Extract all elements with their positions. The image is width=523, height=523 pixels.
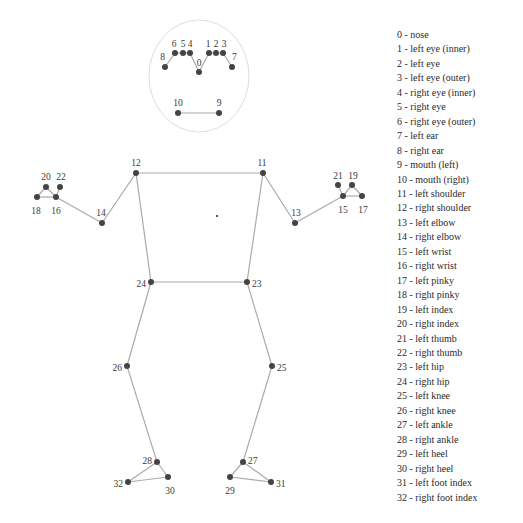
- landmark-label: 4: [188, 39, 193, 49]
- head-outline: [149, 20, 249, 132]
- landmark-label: 24: [137, 279, 147, 289]
- landmark-labels: 0123456789101112131415161718192021222324…: [31, 39, 368, 496]
- landmark-label: 7: [232, 52, 237, 62]
- landmark-label: 1: [206, 39, 211, 49]
- landmark-label: 16: [51, 206, 61, 216]
- connection-line: [136, 173, 151, 282]
- legend-item: 24 - right hip: [397, 375, 478, 389]
- connection-line: [295, 196, 343, 223]
- legend-item: 0 - nose: [397, 28, 478, 42]
- landmark-point: [175, 110, 181, 116]
- legend-item: 32 - right foot index: [397, 491, 478, 505]
- legend-item: 30 - right heel: [397, 462, 478, 476]
- landmark-label: 15: [338, 205, 348, 215]
- landmark-label: 21: [333, 171, 343, 181]
- legend-item: 16 - right wrist: [397, 259, 478, 273]
- landmark-point: [43, 184, 49, 190]
- landmark-label: 28: [143, 456, 153, 466]
- landmark-point: [165, 474, 171, 480]
- legend-item: 13 - left elbow: [397, 216, 478, 230]
- landmark-label: 29: [225, 486, 235, 496]
- landmark-point: [57, 184, 63, 190]
- connection-line: [56, 197, 102, 223]
- landmark-point: [196, 69, 202, 75]
- legend-item: 14 - right elbow: [397, 230, 478, 244]
- landmark-point: [340, 193, 346, 199]
- landmark-point: [133, 170, 139, 176]
- landmark-point: [213, 50, 219, 56]
- landmark-point: [244, 279, 250, 285]
- landmark-label: 27: [248, 456, 258, 466]
- landmark-point: [172, 50, 178, 56]
- landmark-label: 5: [181, 39, 186, 49]
- landmark-point: [292, 220, 298, 226]
- legend-item: 4 - right eye (inner): [397, 86, 478, 100]
- legend-item: 7 - left ear: [397, 129, 478, 143]
- landmark-label: 13: [291, 208, 301, 218]
- landmark-label: 32: [114, 479, 124, 489]
- landmark-point: [154, 459, 160, 465]
- legend-item: 23 - left hip: [397, 360, 478, 374]
- legend-item: 8 - right ear: [397, 144, 478, 158]
- connection-line: [263, 173, 295, 223]
- landmark-point: [180, 50, 186, 56]
- legend-item: 20 - right index: [397, 317, 478, 331]
- connection-line: [102, 173, 136, 223]
- landmark-label: 30: [165, 486, 175, 496]
- landmark-label: 0: [197, 58, 202, 68]
- legend-item: 10 - mouth (right): [397, 173, 478, 187]
- landmark-point: [268, 479, 274, 485]
- landmark-label: 11: [257, 158, 266, 168]
- landmark-points: [34, 50, 365, 485]
- landmark-point: [162, 64, 168, 70]
- legend-item: 22 - right thumb: [397, 346, 478, 360]
- landmark-label: 2: [214, 39, 219, 49]
- landmark-point: [240, 459, 246, 465]
- landmark-point: [260, 170, 266, 176]
- legend-item: 19 - left index: [397, 303, 478, 317]
- legend-item: 18 - right pinky: [397, 288, 478, 302]
- legend-item: 17 - left pinky: [397, 274, 478, 288]
- landmark-label: 23: [252, 279, 262, 289]
- legend-item: 28 - right ankle: [397, 433, 478, 447]
- landmark-point: [220, 50, 226, 56]
- landmark-label: 20: [41, 172, 51, 182]
- legend-item: 11 - left shoulder: [397, 187, 478, 201]
- legend-item: 5 - right eye: [397, 100, 478, 114]
- landmark-point: [148, 279, 154, 285]
- landmark-label: 12: [131, 158, 141, 168]
- skeleton-connections: [37, 53, 362, 482]
- landmark-label: 3: [222, 39, 227, 49]
- connection-line: [243, 366, 272, 462]
- legend-item: 9 - mouth (left): [397, 158, 478, 172]
- landmark-point: [227, 474, 233, 480]
- legend-item: 1 - left eye (inner): [397, 42, 478, 56]
- landmark-label: 18: [31, 206, 41, 216]
- landmark-point: [206, 50, 212, 56]
- stray-dot: [216, 215, 218, 217]
- landmark-point: [53, 194, 59, 200]
- landmark-point: [359, 193, 365, 199]
- landmark-label: 6: [172, 39, 177, 49]
- legend-item: 21 - left thumb: [397, 332, 478, 346]
- landmark-label: 10: [173, 98, 183, 108]
- legend-item: 29 - left heel: [397, 447, 478, 461]
- legend-item: 27 - left ankle: [397, 418, 478, 432]
- landmark-point: [216, 110, 222, 116]
- legend-item: 6 - right eye (outer): [397, 115, 478, 129]
- legend-item: 26 - right knee: [397, 404, 478, 418]
- connection-line: [127, 366, 157, 462]
- landmark-legend: 0 - nose1 - left eye (inner)2 - left eye…: [397, 28, 478, 505]
- landmark-point: [99, 220, 105, 226]
- landmark-point: [229, 64, 235, 70]
- legend-item: 31 - left foot index: [397, 476, 478, 490]
- landmark-label: 26: [113, 363, 123, 373]
- landmark-point: [124, 363, 130, 369]
- landmark-label: 31: [276, 479, 286, 489]
- legend-item: 3 - left eye (outer): [397, 71, 478, 85]
- landmark-label: 22: [56, 172, 66, 182]
- landmark-label: 19: [348, 171, 358, 181]
- landmark-point: [34, 194, 40, 200]
- landmark-point: [349, 182, 355, 188]
- landmark-point: [269, 363, 275, 369]
